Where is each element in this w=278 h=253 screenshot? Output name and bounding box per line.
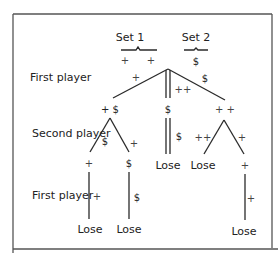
game-tree-diagram: Set 1 + + Set 2 $ First player Second pl…	[0, 0, 278, 253]
move-left-right: +	[130, 138, 138, 149]
move-right-right: +	[238, 132, 246, 143]
node-level1-middle: $	[165, 104, 171, 115]
node-level2-left-right: $	[126, 158, 132, 169]
node-level2-left-left: +	[85, 158, 93, 169]
node-level1-right: + +	[215, 104, 235, 115]
node-level3-left-left: Lose	[77, 223, 102, 236]
edge-left-right	[110, 118, 129, 152]
move-left-left-down: +	[93, 191, 101, 202]
row-label-first-player-bottom: First player	[32, 189, 94, 202]
move-root-left: +	[132, 72, 140, 83]
set-2-label: Set 2	[182, 31, 211, 44]
node-level2-right-right: +	[241, 160, 249, 171]
set-1-label: Set 1	[116, 31, 145, 44]
set-1-item-2: +	[147, 55, 155, 66]
node-level1-left: + $	[101, 104, 119, 115]
node-level3-right-right: Lose	[231, 225, 256, 238]
row-label-first-player-top: First player	[30, 71, 92, 84]
move-left-left: $	[102, 136, 108, 147]
move-root-right: $	[202, 73, 208, 84]
set-1-item-1: +	[121, 55, 129, 66]
move-left-right-down: $	[134, 192, 140, 203]
set-2-item-1: $	[193, 56, 199, 67]
move-root-middle: ++	[175, 84, 192, 95]
move-middle-down: $	[176, 131, 182, 142]
move-right-right-down: +	[247, 193, 255, 204]
set-1-brace	[121, 47, 157, 50]
node-level2-right-left: Lose	[190, 159, 215, 172]
node-level2-middle: Lose	[155, 159, 180, 172]
move-right-left: ++	[195, 132, 212, 143]
set-2-brace	[184, 48, 208, 50]
edge-root-left	[113, 69, 168, 98]
node-level3-left-right: Lose	[116, 223, 141, 236]
row-label-second-player: Second player	[32, 127, 111, 140]
